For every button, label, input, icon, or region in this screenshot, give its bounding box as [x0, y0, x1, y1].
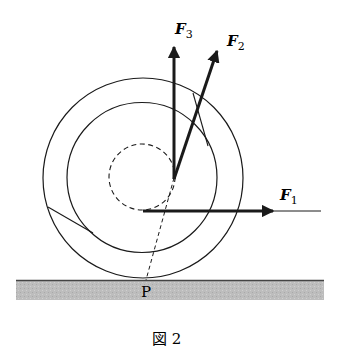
- inner-rim-circle: [67, 103, 217, 253]
- contact-point-label: P: [141, 283, 151, 301]
- f2-label: F2: [226, 32, 245, 53]
- contact-dashed-line: [146, 178, 174, 280]
- figure-caption: 図 2: [152, 330, 181, 348]
- lower-tangent-line: [48, 207, 93, 233]
- spool-diagram: F3 F2 F1 P 図 2: [0, 0, 338, 348]
- ground: [16, 280, 324, 300]
- f1-label: F1: [279, 186, 298, 207]
- f2-arrow: [174, 51, 217, 179]
- f3-label: F3: [174, 20, 193, 41]
- outer-rim-circle: [43, 78, 243, 278]
- axle-dashed-circle: [109, 144, 175, 210]
